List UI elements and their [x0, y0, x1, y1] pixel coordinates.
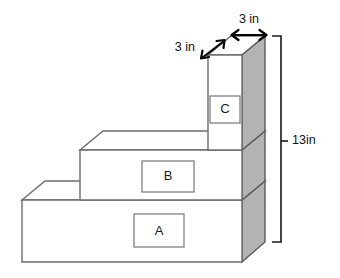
label-text-c: C — [220, 101, 229, 116]
stepped-solid-diagram: A B C 3 in 3 in 13in — [0, 0, 340, 278]
height-bracket — [272, 36, 288, 242]
label-text-a: A — [155, 223, 164, 238]
column-side-face — [242, 36, 265, 150]
label-text-b: B — [164, 168, 173, 183]
depth-label: 3 in — [175, 40, 195, 54]
figure-root: A B C 3 in 3 in 13in — [0, 0, 340, 278]
top-width-label: 3 in — [239, 12, 259, 26]
total-height-label: 13in — [292, 133, 316, 147]
base-front-face — [22, 200, 242, 262]
